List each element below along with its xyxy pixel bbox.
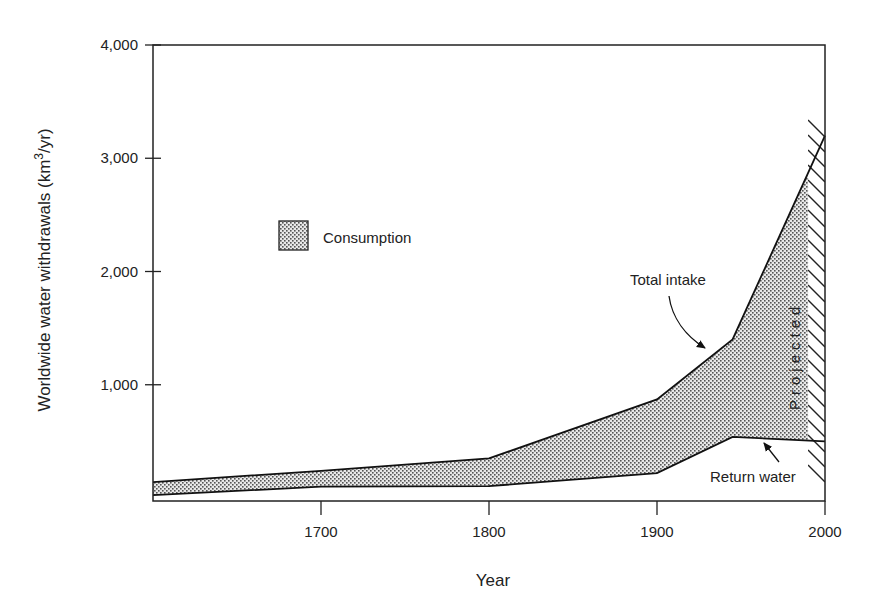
- x-tick-label: 1900: [640, 523, 673, 540]
- total-intake-arrow-icon: [669, 296, 705, 348]
- y-tick-label: 1,000: [100, 376, 138, 393]
- x-tick-label: 2000: [808, 523, 841, 540]
- legend-swatch-consumption: [279, 221, 308, 250]
- return-water-arrow-icon: [764, 443, 779, 462]
- legend-label-consumption: Consumption: [323, 229, 411, 246]
- legend: Consumption: [279, 221, 411, 250]
- chart: 1,0002,0003,0004,000 1700180019002000 Wo…: [0, 0, 875, 614]
- y-axis: 1,0002,0003,0004,000: [100, 36, 161, 393]
- y-tick-label: 4,000: [100, 36, 138, 53]
- x-axis-title: Year: [476, 571, 511, 590]
- x-axis: 1700180019002000: [304, 501, 841, 540]
- projected-label: Projected: [786, 302, 803, 410]
- y-tick-label: 3,000: [100, 149, 138, 166]
- total-intake-label: Total intake: [630, 271, 706, 288]
- x-tick-label: 1700: [304, 523, 337, 540]
- return-water-label: Return water: [710, 468, 796, 485]
- y-axis-title: Worldwide water withdrawals (km3/yr): [32, 128, 54, 411]
- y-tick-label: 2,000: [100, 263, 138, 280]
- plot-area: [153, 120, 825, 495]
- x-tick-label: 1800: [472, 523, 505, 540]
